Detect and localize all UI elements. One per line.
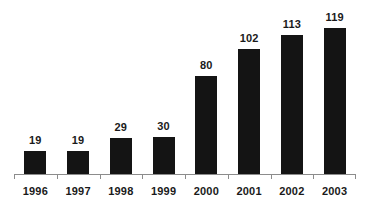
x-axis-tick <box>142 174 143 179</box>
x-axis-tick <box>57 174 58 179</box>
x-tick-label-2002: 2002 <box>271 182 314 200</box>
x-axis-tick <box>100 174 101 179</box>
x-tick-label-1998: 1998 <box>100 182 143 200</box>
bar-value-label: 19 <box>72 135 85 146</box>
x-tick-label-2003: 2003 <box>313 182 356 200</box>
bar-group-1999: 30 <box>142 8 185 174</box>
bar-value-label: 102 <box>240 33 259 44</box>
bar-group-2000: 80 <box>185 8 228 174</box>
bar-group-2003: 119 <box>313 8 356 174</box>
x-axis-tick <box>14 174 15 179</box>
bar-group-2001: 102 <box>228 8 271 174</box>
plot-area: 19 19 29 30 80 102 113 119 <box>14 8 356 174</box>
bar-value-label: 30 <box>157 121 170 132</box>
bar-value-label: 113 <box>283 19 301 30</box>
bar-group-1997: 19 <box>57 8 100 174</box>
bar-rect <box>324 28 346 174</box>
bar-value-label: 119 <box>325 12 343 23</box>
bar-group-2002: 113 <box>271 8 314 174</box>
x-axis-tick <box>313 174 314 179</box>
x-axis-tick <box>271 174 272 179</box>
bar-rect <box>67 151 89 174</box>
bar-rect <box>238 49 260 174</box>
x-tick-label-2000: 2000 <box>185 182 228 200</box>
x-tick-label-1999: 1999 <box>142 182 185 200</box>
bar-rect <box>153 137 175 174</box>
bar-value-label: 19 <box>29 135 42 146</box>
bar-rect <box>24 151 46 174</box>
x-tick-label-1997: 1997 <box>57 182 100 200</box>
bar-chart: 19 19 29 30 80 102 113 119 <box>0 0 370 208</box>
x-axis-tick <box>185 174 186 179</box>
bar-rect <box>110 138 132 174</box>
bar-value-label: 80 <box>200 60 213 71</box>
x-axis-tick <box>355 174 356 179</box>
x-axis-category-labels: 1996 1997 1998 1999 2000 2001 2002 2003 <box>14 182 356 200</box>
bar-rect <box>281 35 303 174</box>
x-tick-label-2001: 2001 <box>228 182 271 200</box>
bar-group-1998: 29 <box>100 8 143 174</box>
bar-rect <box>195 76 217 174</box>
x-axis-ticks <box>14 174 356 179</box>
bar-group-1996: 19 <box>14 8 57 174</box>
x-axis-tick <box>228 174 229 179</box>
x-tick-label-1996: 1996 <box>14 182 57 200</box>
bar-value-label: 29 <box>115 122 128 133</box>
